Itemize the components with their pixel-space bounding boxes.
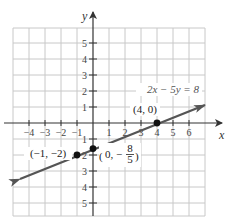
x-tick-label: −1 (72, 127, 83, 138)
x-tick-label: 3 (139, 127, 144, 138)
x-tick-label: −3 (40, 127, 51, 138)
paren-open: ( (99, 150, 103, 163)
x-tick-label: 1 (107, 127, 112, 138)
y-tick-label: 1 (82, 134, 87, 145)
x-axis-label: x (218, 128, 225, 142)
point-x-intercept (154, 120, 161, 127)
coordinate-graph: −4 −3 −2 −1 1 2 3 4 5 6 5 4 3 2 1 1 2 3 … (0, 0, 236, 224)
equation-line (20, 105, 205, 179)
paren-close: ) (135, 150, 139, 163)
y-tick-label: 3 (82, 70, 87, 81)
x-tick-label: 6 (187, 127, 192, 138)
point-neg1-neg2 (74, 152, 81, 159)
y-tick-label: 3 (82, 166, 87, 177)
x-tick-label: −4 (24, 127, 35, 138)
point-label-neg1-neg2: (−1, −2) (30, 147, 67, 160)
y-tick-label: 1 (82, 102, 87, 113)
point-label-x-intercept: (4, 0) (133, 103, 157, 116)
fraction-denominator: 5 (127, 153, 133, 165)
x-tick-label: 5 (171, 127, 176, 138)
y-tick-label: 4 (82, 182, 87, 193)
x-tick-label: 4 (155, 127, 160, 138)
y-tick-label: 5 (82, 198, 87, 209)
equation-label: 2x − 5y = 8 (147, 83, 200, 95)
x-tick-labels: −4 −3 −2 −1 1 2 3 4 5 6 (24, 127, 192, 138)
point-label-y-intercept: ( 0, − 8 5 ) (99, 142, 141, 167)
y-axis-label: y (81, 9, 88, 23)
point-y-intercept (90, 145, 97, 152)
y-tick-label: 5 (82, 38, 87, 49)
y-tick-label: 2 (82, 86, 87, 97)
x-tick-label: −2 (56, 127, 67, 138)
y-tick-label: 4 (82, 54, 87, 65)
point-b-prefix: 0, − (105, 148, 122, 160)
